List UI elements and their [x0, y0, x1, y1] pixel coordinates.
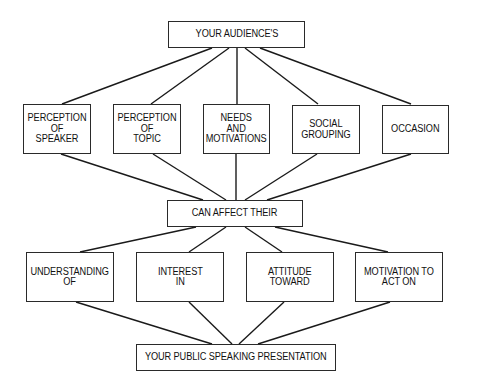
effect-motivation-to-act-on: MOTIVATION TO ACT ON	[355, 252, 443, 302]
factor-perception-of-topic: PERCEPTION OF TOPIC	[113, 104, 181, 154]
factor-occasion: OCCASION	[382, 105, 449, 154]
factor-label: PERCEPTION OF TOPIC	[118, 113, 177, 145]
factor-needs-and-motivations: NEEDS AND MOTIVATIONS	[203, 104, 270, 154]
factor-label: NEEDS AND MOTIVATIONS	[206, 113, 267, 145]
effect-label: ATTITUDE TOWARD	[268, 267, 312, 288]
connector-lines	[0, 0, 477, 392]
presentation-label: YOUR PUBLIC SPEAKING PRESENTATION	[145, 352, 327, 363]
audience-influence-diagram: YOUR AUDIENCE'S PERCEPTION OF SPEAKER PE…	[0, 0, 477, 392]
factor-label: PERCEPTION OF SPEAKER	[28, 113, 87, 145]
effect-label: MOTIVATION TO ACT ON	[364, 267, 434, 288]
can-affect-box: CAN AFFECT THEIR	[167, 200, 303, 227]
audience-label: YOUR AUDIENCE'S	[195, 29, 278, 40]
effect-label: INTEREST IN	[158, 267, 203, 288]
effect-label: UNDERSTANDING OF	[31, 267, 109, 288]
effect-interest-in: INTEREST IN	[136, 252, 224, 302]
factor-label: SOCIAL GROUPING	[301, 119, 350, 140]
factor-social-grouping: SOCIAL GROUPING	[292, 105, 360, 154]
can-affect-label: CAN AFFECT THEIR	[192, 208, 278, 219]
effect-attitude-toward: ATTITUDE TOWARD	[246, 252, 334, 302]
effect-understanding-of: UNDERSTANDING OF	[26, 252, 114, 302]
factor-perception-of-speaker: PERCEPTION OF SPEAKER	[23, 104, 91, 154]
presentation-box: YOUR PUBLIC SPEAKING PRESENTATION	[136, 344, 336, 371]
factor-label: OCCASION	[391, 124, 439, 135]
audience-box: YOUR AUDIENCE'S	[168, 21, 305, 48]
